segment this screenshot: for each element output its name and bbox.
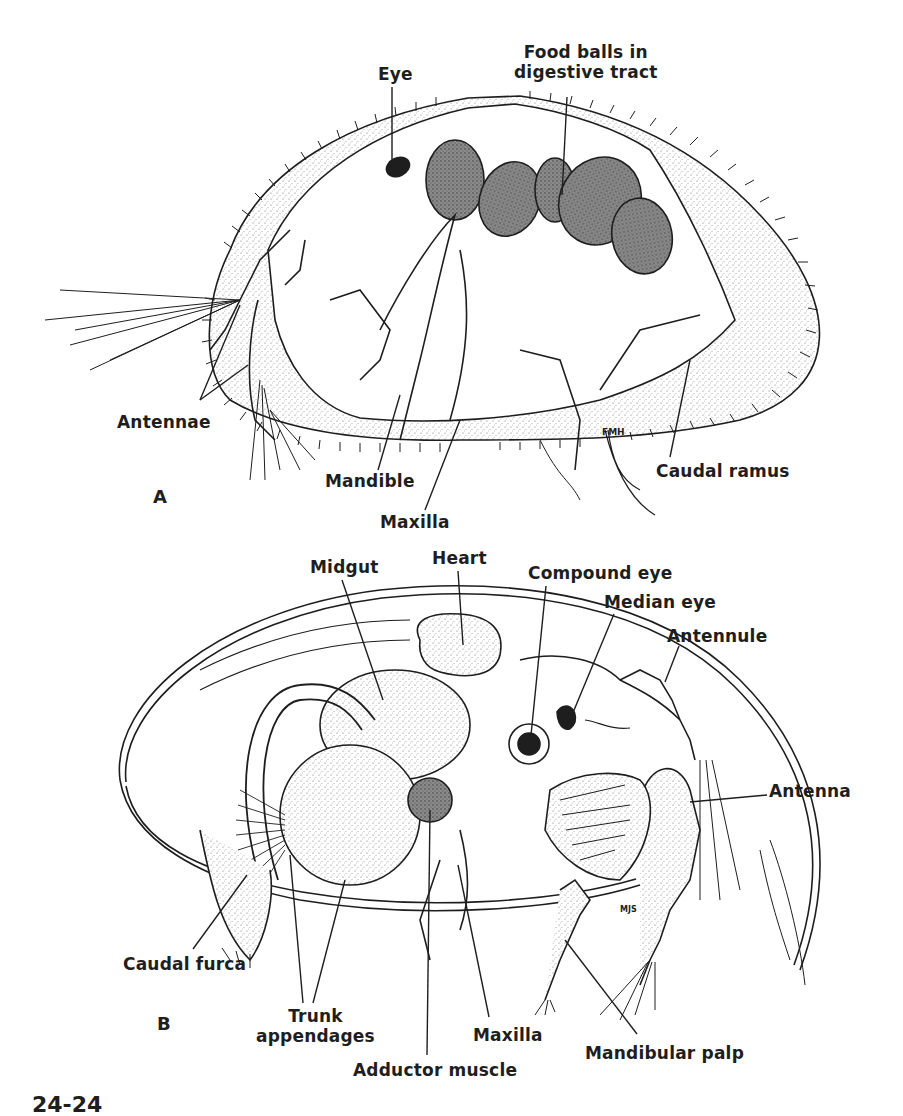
label-heart: Heart <box>432 548 487 568</box>
artist-initials-a: FMH <box>602 427 625 437</box>
label-mandibular-palp: Mandibular palp <box>585 1043 744 1063</box>
label-trunk-appendages: Trunk appendages <box>256 1006 375 1046</box>
label-compound-eye: Compound eye <box>528 563 673 583</box>
label-adductor-muscle: Adductor muscle <box>353 1060 517 1080</box>
label-food-balls-in-digestive-tract: Food balls in digestive tract <box>514 42 657 82</box>
label-eye: Eye <box>378 64 413 84</box>
panel-label-b: B <box>157 1013 171 1034</box>
label-antennule: Antennule <box>667 626 767 646</box>
label-antenna: Antenna <box>769 781 851 801</box>
label-median-eye: Median eye <box>604 592 716 612</box>
label-caudal-ramus: Caudal ramus <box>656 461 790 481</box>
panel-a-specimen <box>45 91 819 515</box>
label-antennae: Antennae <box>117 412 211 432</box>
label-maxilla-a: Maxilla <box>380 512 450 532</box>
label-mandible: Mandible <box>325 471 415 491</box>
figure-caption-number: 24-24 <box>32 1092 102 1116</box>
label-caudal-furca: Caudal furca <box>123 954 246 974</box>
panel-label-a: A <box>153 486 167 507</box>
label-midgut: Midgut <box>310 557 379 577</box>
label-maxilla-b: Maxilla <box>473 1025 543 1045</box>
artist-initials-b: MJS <box>620 905 637 914</box>
